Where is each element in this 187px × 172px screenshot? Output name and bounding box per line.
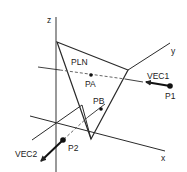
point-p1: [167, 83, 173, 89]
label-p2: P2: [68, 143, 79, 153]
point-pa: [89, 73, 93, 77]
vec2-arrow: [41, 140, 63, 161]
label-x: x: [161, 153, 166, 163]
label-y: y: [171, 46, 176, 56]
x-axis: [30, 116, 165, 151]
point-p2: [60, 137, 66, 143]
y-axis: [32, 105, 82, 140]
vec1-arrow: [146, 82, 170, 86]
label-pb: PB: [93, 96, 105, 106]
vec2-dashed: [63, 117, 88, 140]
vec1-solid-left: [38, 67, 60, 70]
plane-pln: [57, 42, 128, 139]
y-axis-upper: [128, 43, 170, 70]
plane-triangle: [57, 42, 128, 139]
point-pb: [99, 107, 103, 111]
label-pln: PLN: [71, 57, 88, 67]
label-vec1: VEC1: [147, 71, 169, 81]
diagram-canvas: z y x PLN PA PB VEC1 P1 P2 VEC2: [0, 0, 187, 172]
label-p1: P1: [165, 91, 176, 101]
vec1-solid-right: [125, 79, 143, 82]
plane-trace-line: [82, 105, 91, 139]
label-vec2: VEC2: [15, 149, 37, 159]
label-pa: PA: [85, 79, 96, 89]
axes: [30, 17, 170, 172]
label-z: z: [47, 15, 51, 25]
